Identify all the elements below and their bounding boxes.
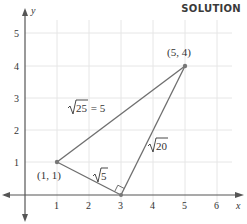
y-tick-2: 2 (14, 125, 19, 136)
point-label-1-1: (1, 1) (37, 169, 61, 182)
x-tick-5: 5 (182, 200, 187, 211)
point-3-0 (119, 193, 123, 197)
x-axis-label: x (235, 200, 241, 211)
arrow-right-icon (235, 192, 244, 198)
y-axis (22, 8, 28, 222)
x-tick-1: 1 (54, 200, 59, 211)
radicand-20: 20 (156, 140, 168, 152)
x-tick-6: 6 (214, 200, 219, 211)
label-sqrt25: 25 = 5 (68, 100, 106, 114)
x-tick-3: 3 (118, 200, 123, 211)
point-label-5-4: (5, 4) (167, 46, 191, 59)
coordinate-diagram: y x 1 2 3 4 5 6 1 2 3 4 5 (1, 1) (5, 4) … (0, 0, 247, 224)
x-tick-4: 4 (150, 200, 155, 211)
radicand-5: 5 (101, 170, 107, 182)
x-tick-2: 2 (86, 200, 91, 211)
radicand-25: 25 (76, 102, 88, 114)
arrow-down-icon (22, 214, 28, 222)
y-tick-4: 4 (14, 61, 19, 72)
suffix-equals-5: = 5 (88, 102, 106, 114)
label-sqrt5: 5 (93, 168, 108, 182)
point-1-1 (55, 160, 59, 164)
arrow-up-icon (22, 8, 28, 16)
label-sqrt20: 20 (148, 138, 168, 152)
point-5-4 (183, 64, 187, 68)
y-tick-5: 5 (14, 28, 19, 39)
y-tick-1: 1 (14, 157, 19, 168)
y-tick-3: 3 (14, 93, 19, 104)
y-axis-label: y (30, 5, 36, 16)
arrow-left-icon (2, 192, 10, 198)
